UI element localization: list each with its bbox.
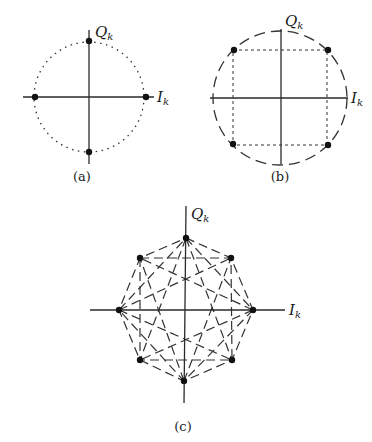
constellation-point xyxy=(183,235,189,241)
panel-caption: (c) xyxy=(174,419,191,434)
panel-caption: (a) xyxy=(73,169,91,184)
constellation-point xyxy=(230,141,236,147)
constellation-point xyxy=(250,307,256,313)
constellation-point xyxy=(228,255,234,261)
chord-transition xyxy=(140,238,186,360)
constellation-point xyxy=(231,47,237,53)
constellation-point xyxy=(86,38,92,44)
panel-a: Qk Ik (a) xyxy=(23,23,169,184)
constellation-figure: Qk Ik (a) Qk Ik (b) xyxy=(0,0,372,442)
panel-b: Qk Ik (b) xyxy=(210,12,363,184)
q-axis-label: Qk xyxy=(191,205,209,224)
constellation-point xyxy=(137,255,143,261)
chord-transition xyxy=(119,310,232,360)
i-axis-label: Ik xyxy=(156,88,169,107)
panel-c: Qk Ik (c) xyxy=(90,205,301,434)
panel-caption: (b) xyxy=(271,169,289,184)
constellation-point xyxy=(143,94,149,100)
i-axis-label: Ik xyxy=(350,89,363,108)
constellation-point xyxy=(116,307,122,313)
q-axis-label: Qk xyxy=(285,12,303,31)
chord-transition xyxy=(184,258,231,381)
constellation-point xyxy=(229,357,235,363)
constellation-point xyxy=(325,142,331,148)
constellation-point xyxy=(32,94,38,100)
constellation-point xyxy=(325,47,331,53)
chord-transition xyxy=(186,238,232,360)
i-axis-label: Ik xyxy=(288,301,301,320)
constellation-point xyxy=(181,378,187,384)
constellation-point xyxy=(86,149,92,155)
constellation-point xyxy=(137,357,143,363)
chord-transition xyxy=(140,310,253,360)
q-axis-label: Qk xyxy=(95,23,113,42)
